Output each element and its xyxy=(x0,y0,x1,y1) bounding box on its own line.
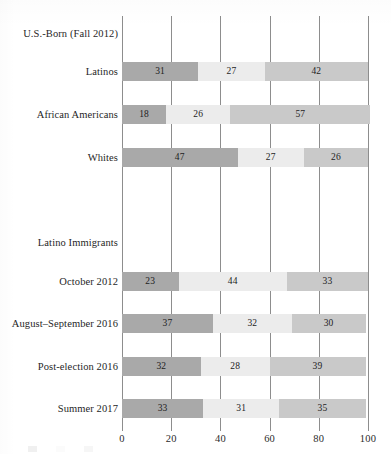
bar-segment: 33 xyxy=(122,399,203,418)
bar-segment: 44 xyxy=(179,272,287,291)
bar-row: Summer 2017333135 xyxy=(0,399,391,418)
stacked-bar: 333135 xyxy=(122,399,368,418)
bar-segment: 18 xyxy=(122,105,166,124)
x-axis-tick-label: 40 xyxy=(215,433,226,444)
bar-segment-value: 47 xyxy=(122,148,238,167)
legend-item xyxy=(84,446,96,452)
bar-segment: 33 xyxy=(287,272,368,291)
x-axis-tick-label: 60 xyxy=(264,433,275,444)
bar-row-label: October 2012 xyxy=(0,272,118,291)
bar-row-label: August–September 2016 xyxy=(0,314,118,333)
bar-segment-value: 44 xyxy=(179,272,287,291)
legend-item xyxy=(56,446,68,452)
bar-segment-value: 57 xyxy=(230,105,370,124)
bar-segment: 37 xyxy=(122,314,213,333)
stacked-bar: 312742 xyxy=(122,62,368,81)
x-axis-tick-label: 0 xyxy=(119,433,124,444)
bar-row: Post-election 2016322839 xyxy=(0,357,391,376)
group-caption: U.S.-Born (Fall 2012) xyxy=(0,28,118,39)
bar-segment-value: 30 xyxy=(292,314,366,333)
bar-segment-value: 26 xyxy=(304,148,368,167)
x-axis-tick-label: 100 xyxy=(360,433,376,444)
bar-segment: 31 xyxy=(203,399,279,418)
bar-segment-value: 32 xyxy=(213,314,292,333)
x-axis-tick-label: 20 xyxy=(166,433,177,444)
x-axis-tick xyxy=(368,424,369,431)
bar-segment: 32 xyxy=(213,314,292,333)
x-axis-tick xyxy=(220,424,221,431)
x-axis-tick xyxy=(319,424,320,431)
bar-segment-value: 23 xyxy=(122,272,179,291)
bar-segment: 57 xyxy=(230,105,370,124)
stacked-bar: 234433 xyxy=(122,272,368,291)
legend-item xyxy=(28,446,40,452)
bar-segment-value: 39 xyxy=(270,357,366,376)
bar-segment: 28 xyxy=(201,357,270,376)
legend-swatch xyxy=(84,446,93,452)
stacked-bar-chart-figure: U.S.-Born (Fall 2012)Latino Immigrants L… xyxy=(0,0,391,454)
bar-segment-value: 28 xyxy=(201,357,270,376)
bar-segment: 27 xyxy=(198,62,264,81)
legend-swatch xyxy=(56,446,65,452)
bar-row-label: Latinos xyxy=(0,62,118,81)
bar-segment: 31 xyxy=(122,62,198,81)
x-axis-tick xyxy=(270,424,271,431)
bar-segment-value: 31 xyxy=(203,399,279,418)
bar-segment-value: 33 xyxy=(287,272,368,291)
bar-segment: 23 xyxy=(122,272,179,291)
bar-segment-value: 31 xyxy=(122,62,198,81)
bar-segment: 32 xyxy=(122,357,201,376)
bar-segment: 47 xyxy=(122,148,238,167)
bar-row-label: Post-election 2016 xyxy=(0,357,118,376)
x-axis-tick xyxy=(171,424,172,431)
bar-segment-value: 35 xyxy=(279,399,365,418)
bar-segment-value: 18 xyxy=(122,105,166,124)
bar-segment-value: 27 xyxy=(238,148,304,167)
group-caption: Latino Immigrants xyxy=(0,237,118,248)
x-axis-tick-label: 80 xyxy=(313,433,324,444)
chart-legend xyxy=(0,446,391,454)
bar-segment-value: 32 xyxy=(122,357,201,376)
stacked-bar: 182657 xyxy=(122,105,368,124)
bar-segment: 39 xyxy=(270,357,366,376)
bar-row: African Americans182657 xyxy=(0,105,391,124)
bar-segment: 30 xyxy=(292,314,366,333)
bar-segment: 42 xyxy=(265,62,368,81)
bar-segment: 26 xyxy=(166,105,230,124)
bar-row: Whites472726 xyxy=(0,148,391,167)
stacked-bar: 373230 xyxy=(122,314,368,333)
bar-segment-value: 42 xyxy=(265,62,368,81)
bar-segment-value: 37 xyxy=(122,314,213,333)
stacked-bar: 322839 xyxy=(122,357,368,376)
bar-row: October 2012234433 xyxy=(0,272,391,291)
bar-segment-value: 33 xyxy=(122,399,203,418)
bar-row-label: Summer 2017 xyxy=(0,399,118,418)
stacked-bar: 472726 xyxy=(122,148,368,167)
bar-segment: 27 xyxy=(238,148,304,167)
bar-row: Latinos312742 xyxy=(0,62,391,81)
bar-segment-value: 26 xyxy=(166,105,230,124)
bar-row-label: Whites xyxy=(0,148,118,167)
bar-row-label: African Americans xyxy=(0,105,118,124)
x-axis-tick xyxy=(122,424,123,431)
bar-segment: 26 xyxy=(304,148,368,167)
legend-swatch xyxy=(28,446,37,452)
bar-row: August–September 2016373230 xyxy=(0,314,391,333)
bar-segment-value: 27 xyxy=(198,62,264,81)
bar-segment: 35 xyxy=(279,399,365,418)
